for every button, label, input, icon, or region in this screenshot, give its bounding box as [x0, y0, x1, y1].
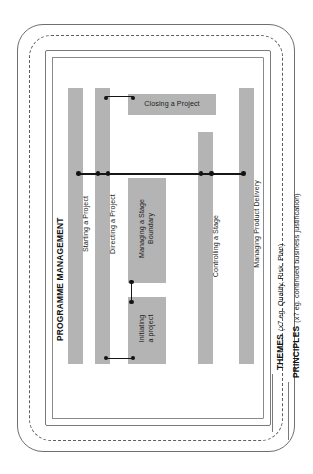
principles-leader	[288, 382, 289, 440]
process-label-closing-a-project: Closing a Project	[128, 94, 216, 115]
process-label-directing-a-project: Directing a Project	[106, 86, 121, 362]
process-label-managing-a-stage-boundary: Managing a Stage Boundary	[137, 176, 157, 281]
caption-programme-management: PROGRAMME MANAGEMENT	[55, 217, 65, 341]
diagram-canvas: Starting a Project Directing a Project C…	[0, 0, 313, 474]
programme-management-leader-bottom	[52, 345, 53, 419]
caption-principles: PRINCIPLES(x7 eg. continued business jus…	[285, 193, 303, 378]
connector-dot-initiating-top	[129, 300, 134, 305]
connector-dot-controlling-main-right	[209, 171, 214, 176]
connector-dot-directing-main-left	[96, 171, 101, 176]
caption-principles-strong: PRINCIPLES	[291, 326, 301, 378]
connector-dot-delivery-main	[241, 171, 246, 176]
connector-dot-starting-main	[76, 171, 81, 176]
process-label-controlling-a-stage: Controlling a Stage	[209, 130, 224, 362]
process-label-starting-a-project: Starting a Project	[79, 86, 94, 362]
connector-directing-to-initiating	[106, 358, 133, 360]
connector-main-horizontal	[78, 173, 244, 175]
caption-themes-strong: THEMES	[275, 334, 285, 370]
caption-principles-light: (x7 eg. continued business justification…	[292, 193, 301, 323]
connector-dot-boundary-bottom	[129, 280, 134, 285]
connector-directing-to-closing	[106, 96, 133, 98]
process-label-managing-product-delivery: Managing Product Delivery	[250, 86, 265, 362]
programme-management-leader-top	[52, 57, 53, 131]
caption-themes-light: (x7 eg. Quality, Risk, Plan)	[276, 244, 285, 331]
connector-dot-directing-main-right	[106, 171, 111, 176]
connector-dot-controlling-main-left	[199, 171, 204, 176]
process-label-initiating-a-project: Initiating a project	[137, 295, 157, 362]
themes-leader	[272, 374, 273, 432]
